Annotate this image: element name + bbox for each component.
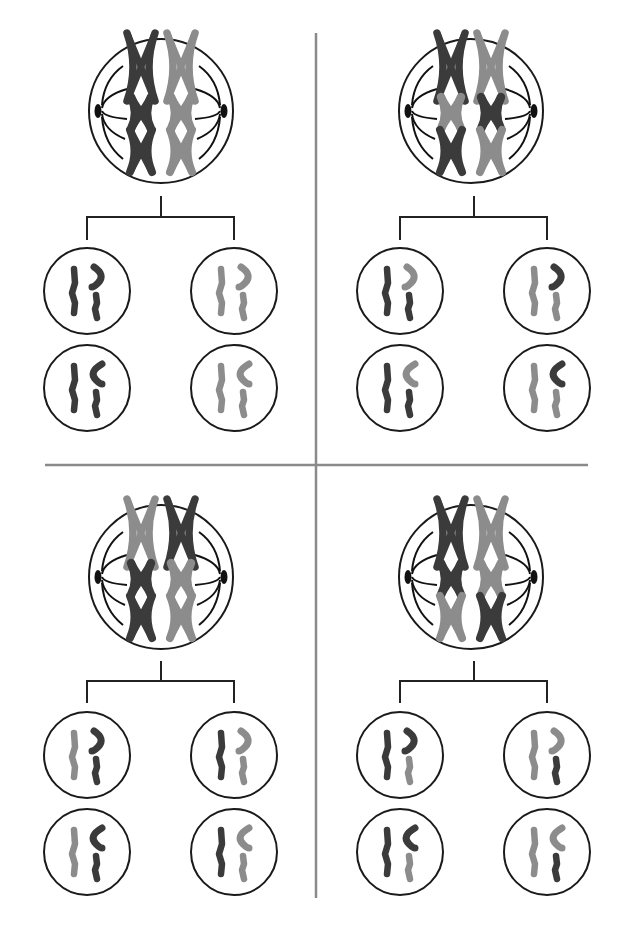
parent-cell [399, 33, 543, 183]
meiosis-diagram: Meiosis: independent assortment of homol… [0, 0, 628, 942]
parent-cell [89, 499, 233, 649]
chromosome-short [95, 856, 97, 879]
chromosome-short [242, 295, 244, 318]
cell-membrane [191, 712, 277, 798]
chromosome-long [72, 733, 75, 777]
daughter-cell-4 [191, 345, 277, 431]
cell-membrane [399, 505, 543, 649]
spindle-pole-right [531, 104, 538, 118]
cell-membrane [89, 505, 233, 649]
chromosome-short [95, 759, 97, 782]
chromosome-short [242, 392, 244, 415]
cell-membrane [89, 39, 233, 183]
cell-membrane [357, 345, 443, 431]
quadrant-bottom-left: Arrangement 3 [44, 499, 277, 895]
diagram-canvas: Arrangement 1Arrangement 2Arrangement 3A… [0, 0, 628, 942]
chromosome-long [385, 733, 388, 777]
division-bracket [400, 661, 547, 703]
chromosome-short [408, 759, 410, 782]
chromosome-short [95, 392, 97, 415]
daughter-cell-1 [44, 248, 130, 334]
chromosome-short [408, 295, 410, 318]
quadrant-bottom-right: Arrangement 4 [357, 499, 590, 895]
daughter-cell-2 [191, 712, 277, 798]
quadrant-top-left: Arrangement 1 [44, 33, 277, 431]
chromosome-short [555, 295, 557, 318]
division-bracket [87, 196, 234, 240]
cell-membrane [44, 712, 130, 798]
chromosome-long [532, 269, 535, 313]
chromosome-short [408, 392, 410, 415]
chromosome-short [95, 295, 97, 318]
chromosome-long [532, 830, 535, 874]
parent-cell [89, 33, 233, 183]
chromosome-short [408, 856, 410, 879]
spindle-pole-right [221, 104, 228, 118]
chromosome-long [219, 269, 222, 313]
cell-membrane [399, 39, 543, 183]
daughter-cell-1 [44, 712, 130, 798]
cell-membrane [504, 345, 590, 431]
division-bracket [400, 196, 547, 240]
chromosome-long [219, 830, 222, 874]
chromosome-short [242, 759, 244, 782]
cell-membrane [191, 809, 277, 895]
cell-membrane [357, 248, 443, 334]
chromosome-long [219, 733, 222, 777]
spindle-pole-left [405, 104, 412, 118]
chromosome-long [72, 269, 75, 313]
cell-membrane [44, 809, 130, 895]
spindle-pole-left [95, 104, 102, 118]
chromosome-long [385, 269, 388, 313]
cell-membrane [191, 248, 277, 334]
chromosome-short [242, 856, 244, 879]
quadrant-top-right: Arrangement 2 [357, 33, 590, 431]
daughter-cell-2 [191, 248, 277, 334]
parent-cell [399, 499, 543, 649]
daughter-cell-3 [357, 809, 443, 895]
cell-membrane [357, 809, 443, 895]
cell-membrane [191, 345, 277, 431]
chromosome-long [72, 830, 75, 874]
daughter-cell-1 [357, 248, 443, 334]
daughter-cell-4 [191, 809, 277, 895]
chromosome-short [555, 759, 557, 782]
daughter-cell-2 [504, 248, 590, 334]
daughter-cell-2 [504, 712, 590, 798]
cell-membrane [44, 248, 130, 334]
cell-membrane [357, 712, 443, 798]
spindle-pole-left [95, 570, 102, 584]
cell-membrane [44, 345, 130, 431]
cell-membrane [504, 712, 590, 798]
division-bracket [87, 661, 234, 703]
daughter-cell-4 [504, 345, 590, 431]
chromosome-long [219, 366, 222, 410]
spindle-pole-right [531, 570, 538, 584]
chromosome-long [385, 830, 388, 874]
spindle-pole-left [405, 570, 412, 584]
spindle-pole-right [221, 570, 228, 584]
cell-membrane [504, 809, 590, 895]
daughter-cell-1 [357, 712, 443, 798]
chromosome-short [555, 856, 557, 879]
daughter-cell-4 [504, 809, 590, 895]
chromosome-long [72, 366, 75, 410]
daughter-cell-3 [44, 345, 130, 431]
chromosome-long [385, 366, 388, 410]
daughter-cell-3 [44, 809, 130, 895]
cell-membrane [504, 248, 590, 334]
chromosome-long [532, 733, 535, 777]
daughter-cell-3 [357, 345, 443, 431]
chromosome-long [532, 366, 535, 410]
chromosome-short [555, 392, 557, 415]
